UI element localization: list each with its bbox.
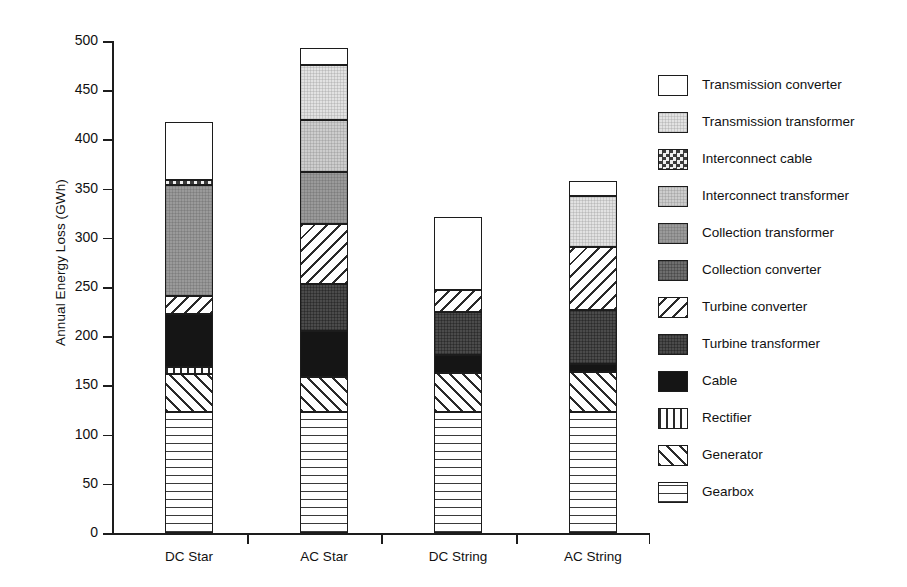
legend-swatch-icon bbox=[658, 186, 688, 207]
bar-segment-generator[interactable] bbox=[300, 377, 348, 412]
legend-item-gearbox[interactable]: Gearbox bbox=[658, 479, 754, 505]
legend-swatch-icon bbox=[658, 482, 688, 503]
legend-item-generator[interactable]: Generator bbox=[658, 442, 763, 468]
legend-label: Transmission transformer bbox=[702, 115, 855, 129]
legend-label: Rectifier bbox=[702, 411, 752, 425]
bar-segment-collection-transformer[interactable] bbox=[300, 172, 348, 224]
y-tick-label: 150 bbox=[75, 376, 98, 392]
y-tick-label: 50 bbox=[82, 475, 98, 491]
plot-area: 050100150200250300350400450500 DC StarAC… bbox=[112, 41, 650, 533]
legend-swatch-icon bbox=[658, 223, 688, 244]
bar-segment-transmission-converter[interactable] bbox=[569, 181, 617, 196]
legend-swatch-icon bbox=[658, 334, 688, 355]
legend-item-turbine-transformer[interactable]: Turbine transformer bbox=[658, 331, 820, 357]
y-tick: 300 bbox=[103, 238, 112, 240]
bar-segment-transmission-transformer[interactable] bbox=[569, 196, 617, 247]
y-tick: 0 bbox=[103, 533, 112, 535]
y-tick-label: 0 bbox=[90, 524, 98, 540]
y-tick-label: 350 bbox=[75, 180, 98, 196]
legend-label: Gearbox bbox=[702, 485, 754, 499]
y-tick: 400 bbox=[103, 139, 112, 141]
legend-swatch-icon bbox=[658, 445, 688, 466]
legend-item-interconnect-cable[interactable]: Interconnect cable bbox=[658, 146, 812, 172]
y-tick-label: 200 bbox=[75, 327, 98, 343]
x-tick bbox=[381, 534, 383, 544]
legend-swatch-icon bbox=[658, 260, 688, 281]
bar-segment-interconnect-cable[interactable] bbox=[165, 180, 213, 185]
bar-segment-gearbox[interactable] bbox=[300, 412, 348, 533]
y-tick-label: 250 bbox=[75, 278, 98, 294]
bar-segment-gearbox[interactable] bbox=[434, 412, 482, 533]
legend-label: Turbine transformer bbox=[702, 337, 820, 351]
bar-segment-turbine-converter[interactable] bbox=[165, 296, 213, 314]
bar-dc-star[interactable] bbox=[165, 152, 213, 533]
bar-segment-turbine-converter[interactable] bbox=[569, 247, 617, 310]
legend-item-rectifier[interactable]: Rectifier bbox=[658, 405, 752, 431]
bar-segment-transmission-transformer[interactable] bbox=[300, 65, 348, 120]
y-tick: 150 bbox=[103, 385, 112, 387]
y-axis-title: Annual Energy Loss (GWh) bbox=[53, 103, 68, 423]
x-tick bbox=[247, 534, 249, 544]
y-tick-label: 300 bbox=[75, 229, 98, 245]
legend-item-turbine-converter[interactable]: Turbine converter bbox=[658, 294, 807, 320]
y-tick-label: 400 bbox=[75, 130, 98, 146]
legend-item-collection-transformer[interactable]: Collection transformer bbox=[658, 220, 834, 246]
y-tick: 50 bbox=[103, 484, 112, 486]
legend-item-collection-converter[interactable]: Collection converter bbox=[658, 257, 821, 283]
bar-segment-turbine-converter[interactable] bbox=[434, 290, 482, 312]
legend-swatch-icon bbox=[658, 112, 688, 133]
y-tick: 350 bbox=[103, 189, 112, 191]
bar-segment-generator[interactable] bbox=[165, 374, 213, 412]
bar-segment-gearbox[interactable] bbox=[569, 412, 617, 533]
x-tick bbox=[516, 534, 518, 544]
legend-label: Collection transformer bbox=[702, 226, 834, 240]
bar-ac-string[interactable] bbox=[569, 182, 617, 533]
y-tick: 250 bbox=[103, 287, 112, 289]
legend-item-transmission-converter[interactable]: Transmission converter bbox=[658, 72, 842, 98]
x-category-label: DC Star bbox=[165, 549, 213, 564]
legend-swatch-icon bbox=[658, 408, 688, 429]
y-tick: 200 bbox=[103, 336, 112, 338]
bar-segment-rectifier[interactable] bbox=[165, 367, 213, 374]
legend-swatch-icon bbox=[658, 149, 688, 170]
legend-label: Interconnect transformer bbox=[702, 189, 849, 203]
legend-item-cable[interactable]: Cable bbox=[658, 368, 737, 394]
y-tick-label: 500 bbox=[75, 32, 98, 48]
bar-ac-star[interactable] bbox=[300, 56, 348, 533]
bar-segment-gearbox[interactable] bbox=[165, 412, 213, 533]
bar-segment-interconnect-transformer[interactable] bbox=[300, 120, 348, 172]
bar-segment-cable[interactable] bbox=[569, 364, 617, 372]
legend-item-interconnect-transformer[interactable]: Interconnect transformer bbox=[658, 183, 849, 209]
y-tick: 500 bbox=[103, 41, 112, 43]
legend-label: Turbine converter bbox=[702, 300, 807, 314]
y-tick-label: 450 bbox=[75, 81, 98, 97]
y-axis-line bbox=[112, 41, 114, 534]
bar-segment-turbine-converter[interactable] bbox=[300, 224, 348, 284]
bar-segment-transmission-converter[interactable] bbox=[434, 217, 482, 290]
bar-segment-transmission-converter[interactable] bbox=[165, 122, 213, 180]
bar-segment-generator[interactable] bbox=[569, 372, 617, 412]
legend-label: Generator bbox=[702, 448, 763, 462]
legend-swatch-icon bbox=[658, 75, 688, 96]
bar-segment-cable[interactable] bbox=[165, 314, 213, 367]
bar-segment-cable[interactable] bbox=[300, 331, 348, 376]
legend-item-transmission-transformer[interactable]: Transmission transformer bbox=[658, 109, 855, 135]
bar-segment-turbine-transformer[interactable] bbox=[434, 312, 482, 355]
bar-segment-turbine-transformer[interactable] bbox=[300, 284, 348, 331]
bar-segment-transmission-converter[interactable] bbox=[300, 48, 348, 65]
bar-dc-string[interactable] bbox=[434, 217, 482, 533]
legend-label: Cable bbox=[702, 374, 737, 388]
legend-label: Collection converter bbox=[702, 263, 821, 277]
y-tick: 100 bbox=[103, 435, 112, 437]
bar-segment-cable[interactable] bbox=[434, 355, 482, 373]
bar-segment-generator[interactable] bbox=[434, 373, 482, 412]
legend-swatch-icon bbox=[658, 297, 688, 318]
bar-segment-collection-transformer[interactable] bbox=[165, 185, 213, 296]
x-category-label: AC Star bbox=[300, 549, 347, 564]
bar-segment-turbine-transformer[interactable] bbox=[569, 310, 617, 364]
y-tick: 450 bbox=[103, 90, 112, 92]
legend-swatch-icon bbox=[658, 371, 688, 392]
x-tick bbox=[649, 534, 651, 544]
x-category-label: AC String bbox=[564, 549, 622, 564]
legend-label: Interconnect cable bbox=[702, 152, 812, 166]
